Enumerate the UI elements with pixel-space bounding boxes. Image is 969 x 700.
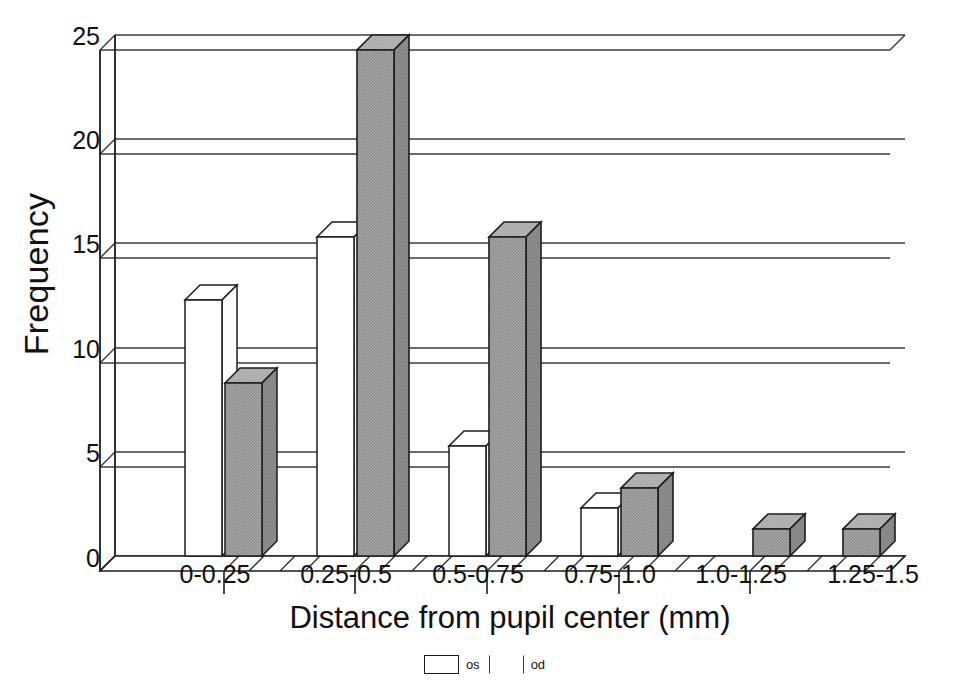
white-rectangle-icon	[489, 655, 524, 674]
x-axis-title: Distance from pupil center (mm)	[115, 600, 905, 636]
bar-group-0.5-0.75	[449, 222, 541, 556]
bar-od-3	[621, 473, 673, 556]
bar-group-0.75-1.0	[581, 473, 673, 556]
bar-od-2	[489, 222, 541, 556]
bar-od-0	[225, 368, 277, 556]
x-tick-label: 0-0.25	[140, 560, 290, 588]
y-axis-line	[100, 35, 115, 571]
x-tick-label: 0.75-1.0	[535, 560, 685, 588]
plot-area	[0, 0, 969, 700]
bar-od-5	[843, 514, 895, 556]
bar-group-0.25-0.5	[317, 35, 409, 556]
legend-label-os: os	[466, 658, 480, 671]
x-tick-label: 0.5-0.75	[403, 560, 553, 588]
legend-label-od: od	[531, 658, 545, 671]
legend-item-od: od	[489, 655, 545, 674]
bar-group-1.25-1.5	[843, 514, 895, 556]
legend-item-os: os	[424, 655, 480, 674]
bar-group-0-0.25	[185, 285, 277, 556]
white-rectangle-icon	[424, 655, 459, 674]
bar-group-1.0-1.25	[753, 514, 805, 556]
bar-od-4	[753, 514, 805, 556]
bar-chart: Frequency 25 20 15 10 5 0	[0, 0, 969, 700]
x-tick-label: 1.25-1.5	[798, 560, 948, 588]
x-tick-label: 1.0-1.25	[666, 560, 816, 588]
bar-od-1	[357, 35, 409, 556]
x-tick-label: 0.25-0.5	[271, 560, 421, 588]
chart-legend: os od	[0, 655, 969, 674]
